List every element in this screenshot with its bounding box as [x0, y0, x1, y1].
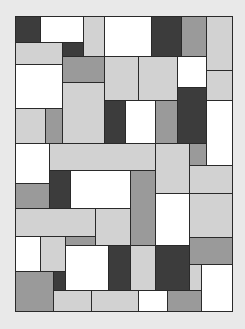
grid-block-light: [15, 42, 63, 65]
grid-block-dark: [108, 245, 131, 291]
grid-block-light: [95, 208, 131, 246]
grid-block-dark: [177, 87, 207, 144]
grid-block-light: [15, 108, 46, 144]
grid-block-light: [138, 56, 178, 101]
grid-block-white: [206, 100, 233, 166]
grid-block-white: [15, 143, 50, 184]
grid-block-mid: [155, 100, 178, 144]
grid-block-mid: [62, 56, 105, 83]
grid-block-mid: [167, 290, 202, 312]
grid-block-light: [15, 208, 96, 237]
grid-block-mid: [189, 143, 207, 166]
grid-block-mid: [15, 183, 50, 209]
grid-block-light: [91, 290, 139, 312]
grid-block-white: [40, 16, 84, 43]
grid-block-mid: [45, 108, 63, 144]
mondrian-grid-artwork: [0, 0, 245, 329]
grid-block-dark: [104, 100, 126, 144]
grid-block-mid: [15, 271, 54, 312]
grid-block-light: [49, 143, 156, 171]
grid-block-light: [104, 56, 139, 101]
grid-block-dark: [53, 271, 66, 291]
grid-block-white: [65, 245, 109, 291]
grid-block-dark: [49, 170, 71, 209]
grid-block-white: [155, 193, 190, 246]
grid-block-white: [201, 264, 233, 312]
grid-block-light: [155, 143, 190, 194]
grid-block-light: [62, 82, 105, 144]
grid-block-white: [70, 170, 131, 209]
grid-block-light: [189, 165, 233, 194]
grid-block-white: [15, 64, 63, 109]
grid-block-white: [138, 290, 168, 312]
grid-block-dark: [151, 16, 182, 57]
grid-block-mid: [181, 16, 207, 57]
grid-block-dark: [15, 16, 41, 43]
grid-block-light: [206, 70, 233, 101]
grid-block-light: [130, 245, 156, 291]
grid-block-mid: [189, 237, 233, 265]
grid-block-mid: [130, 170, 156, 246]
grid-block-light: [189, 193, 233, 238]
grid-block-white: [177, 56, 207, 88]
grid-block-light: [40, 236, 66, 272]
grid-block-white: [104, 16, 152, 57]
grid-block-light: [206, 16, 233, 71]
grid-block-white: [125, 100, 156, 144]
grid-block-dark: [155, 245, 190, 291]
grid-block-light: [53, 290, 92, 312]
grid-block-light: [83, 16, 105, 57]
grid-block-dark: [62, 42, 84, 57]
grid-block-white: [15, 236, 41, 272]
